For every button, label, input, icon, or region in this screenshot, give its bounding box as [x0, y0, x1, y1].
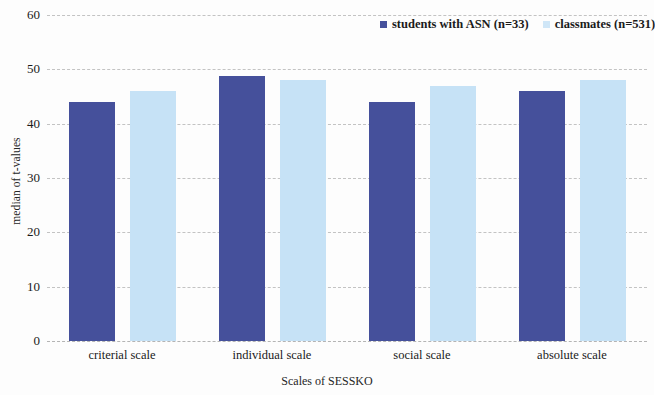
bar [69, 102, 115, 341]
y-axis-tick-label: 40 [8, 116, 40, 132]
y-axis-tick-label: 30 [8, 170, 40, 186]
bar [580, 80, 626, 341]
bar [369, 102, 415, 341]
bar [130, 91, 176, 341]
x-axis-tick-label: absolute scale [537, 348, 607, 363]
gridline [47, 341, 647, 342]
bar-series-container [47, 15, 647, 341]
bar [519, 91, 565, 341]
y-axis-tick-label: 20 [8, 224, 40, 240]
bar [280, 80, 326, 341]
bar [219, 76, 265, 341]
y-axis-tick-label: 10 [8, 279, 40, 295]
x-axis-title: Scales of SESSKO [0, 374, 654, 389]
y-axis-tick-label: 60 [8, 7, 40, 23]
x-axis-tick-label: social scale [393, 348, 450, 363]
y-axis-tick-label: 50 [8, 61, 40, 77]
x-axis-tick-label: criterial scale [89, 348, 156, 363]
x-axis-tick-label: individual scale [233, 348, 312, 363]
plot-area [47, 15, 647, 341]
y-axis-tick-label: 0 [8, 333, 40, 349]
bar [430, 86, 476, 341]
